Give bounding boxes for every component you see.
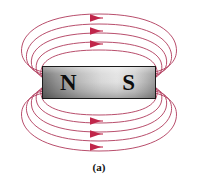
field-arrow-top-3	[90, 40, 103, 48]
figure-caption: (a)	[0, 161, 198, 173]
field-arrow-group-top	[90, 14, 103, 48]
bar-magnet: N S	[42, 66, 156, 99]
magnet-south-pole-label: S	[122, 71, 135, 94]
field-arrow-bottom-3	[90, 143, 103, 151]
magnet-north-pole-label: N	[60, 71, 77, 94]
field-arrow-bottom-2	[90, 130, 103, 138]
bar-magnet-field-figure: N S (a)	[0, 0, 198, 185]
field-arrow-bottom-1	[90, 117, 103, 125]
field-arrow-group-bottom	[90, 117, 103, 151]
field-arrow-top-2	[90, 27, 103, 35]
field-arrow-top-1	[90, 14, 103, 22]
